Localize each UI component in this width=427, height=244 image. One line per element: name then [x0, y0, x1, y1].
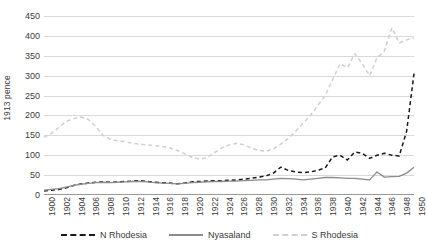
y-axis-tick-label: 300 — [25, 71, 40, 80]
chart-legend: N RhodesiaNyasalandS Rhodesia — [0, 226, 419, 244]
x-axis-tick-label: 1916 — [166, 197, 175, 216]
legend-item-n-rhodesia[interactable]: N Rhodesia — [61, 230, 147, 240]
x-axis-tick-label: 1948 — [403, 197, 412, 216]
series-line-nyasaland — [44, 167, 414, 190]
y-axis-tick-labels: 450400350300250200150100500 — [14, 0, 42, 200]
x-axis-tick-label: 1944 — [374, 197, 383, 216]
x-axis-tick-label: 1950 — [418, 197, 427, 216]
y-axis-title-label: 1913 pence — [2, 75, 12, 120]
x-axis-tick-label: 1906 — [92, 197, 101, 216]
y-axis-tick-label: 0 — [35, 191, 40, 200]
legend-swatch-icon — [169, 234, 203, 236]
x-axis-tick-label: 1934 — [300, 197, 309, 216]
series-lines — [44, 16, 414, 195]
x-axis-tick-label: 1920 — [196, 197, 205, 216]
legend-label: S Rhodesia — [312, 230, 359, 240]
y-axis-tick-label: 400 — [25, 31, 40, 40]
legend-swatch-icon — [61, 234, 95, 236]
x-axis-tick-label: 1922 — [211, 197, 220, 216]
y-axis-title: 1913 pence — [0, 0, 14, 196]
x-axis-tick-labels: 1900190219041906190819101912191419161918… — [44, 197, 414, 227]
x-axis-tick-label: 1930 — [270, 197, 279, 216]
x-axis-tick-label: 1928 — [255, 197, 264, 216]
y-axis-tick-label: 100 — [25, 151, 40, 160]
x-axis-tick-label: 1940 — [344, 197, 353, 216]
legend-label: N Rhodesia — [100, 230, 147, 240]
x-axis-tick-label: 1932 — [285, 197, 294, 216]
y-axis-tick-label: 200 — [25, 111, 40, 120]
legend-label: Nyasaland — [208, 230, 251, 240]
x-axis-tick-label: 1938 — [329, 197, 338, 216]
x-axis-tick-label: 1908 — [107, 197, 116, 216]
x-axis-tick-label: 1902 — [63, 197, 72, 216]
x-axis-tick-label: 1900 — [48, 197, 57, 216]
series-line-s-rhodesia — [44, 28, 414, 159]
legend-item-s-rhodesia[interactable]: S Rhodesia — [273, 230, 359, 240]
x-axis-tick-label: 1912 — [137, 197, 146, 216]
y-axis-tick-label: 150 — [25, 131, 40, 140]
x-axis-tick-label: 1942 — [359, 197, 368, 216]
x-axis-tick-label: 1936 — [314, 197, 323, 216]
x-axis-tick-label: 1926 — [240, 197, 249, 216]
x-axis-tick-label: 1946 — [388, 197, 397, 216]
legend-item-nyasaland[interactable]: Nyasaland — [169, 230, 251, 240]
x-axis-tick-label: 1904 — [78, 197, 87, 216]
x-axis-tick-label: 1924 — [226, 197, 235, 216]
y-axis-tick-label: 350 — [25, 51, 40, 60]
y-axis-tick-label: 450 — [25, 12, 40, 21]
plot-area — [44, 16, 414, 195]
legend-swatch-icon — [273, 234, 307, 236]
x-axis-tick-label: 1914 — [152, 197, 161, 216]
x-axis-tick-label: 1918 — [181, 197, 190, 216]
y-axis-tick-label: 50 — [30, 171, 40, 180]
y-axis-tick-label: 250 — [25, 91, 40, 100]
series-line-n-rhodesia — [44, 74, 414, 191]
x-axis-tick-label: 1910 — [122, 197, 131, 216]
